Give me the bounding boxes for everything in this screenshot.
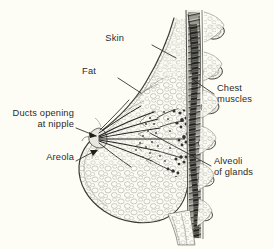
breast-anatomy-figure: Skin Fat Ducts openingat nipple Areola C… — [0, 0, 274, 249]
label-chest-muscles: Chestmuscles — [217, 83, 273, 105]
label-fat: Fat — [38, 66, 96, 77]
label-skin: Skin — [66, 33, 124, 44]
label-ducts-line-1: Ducts opening — [13, 108, 74, 118]
label-chest-line-1: Chest — [217, 83, 242, 93]
label-alveoli-line-1: Alveoli — [214, 156, 242, 166]
label-ducts-line-2: at nipple — [38, 119, 75, 129]
label-areola: Areola — [2, 152, 74, 163]
label-ducts-opening-at-nipple: Ducts openingat nipple — [2, 108, 74, 130]
label-chest-line-2: muscles — [217, 94, 252, 104]
label-alveoli-of-glands: Alveoliof glands — [214, 156, 274, 178]
label-alveoli-line-2: of glands — [214, 167, 253, 177]
